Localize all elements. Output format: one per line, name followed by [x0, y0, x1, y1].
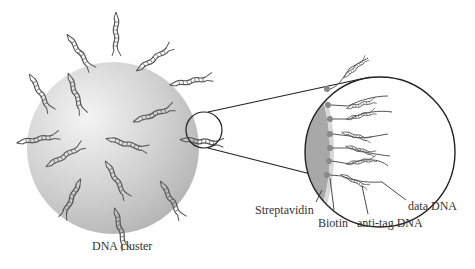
streptavidin-label: Streptavidin [255, 204, 314, 216]
data-dna-label: data DNA [408, 200, 457, 212]
biotin-label: Biotin [318, 217, 348, 229]
cluster-label: DNA cluster [92, 240, 152, 252]
anti-tag-dna-label: anti-tag DNA [357, 217, 423, 229]
